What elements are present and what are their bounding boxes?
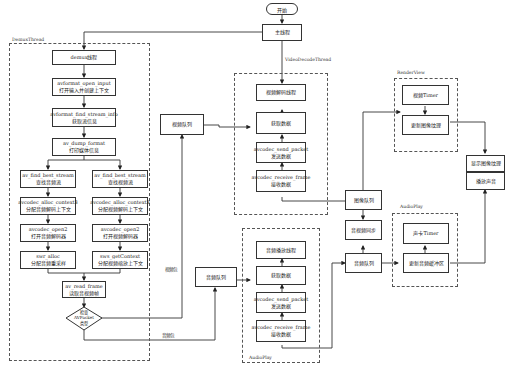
play-sound-box: 播放声音	[466, 172, 505, 190]
av-sync-box: 音视频同步	[345, 220, 382, 240]
audio-play-thread-label: AudioPlay	[249, 355, 272, 360]
audio-alloc-context-box: avcodec_alloc_context3分配音频解码上下文	[20, 197, 76, 215]
desc-label: 发送数据	[271, 153, 291, 160]
queue-label: 音频队列	[354, 260, 374, 267]
fn-label: swr_alloc	[36, 253, 60, 260]
box-label: 声卡Timer	[413, 230, 438, 237]
dump-format-box: av_dump_format打印媒体信息	[52, 138, 116, 156]
fn-label: av_read_frame	[65, 283, 102, 290]
audio-play-output-label: AudioPlay	[400, 204, 423, 209]
decision-line-2: AVPacket	[70, 315, 98, 320]
video-find-best-stream-box: av_find_best_stream查找视频流	[92, 170, 148, 188]
video-receive-frame-box: avcodec_receive_frame接收数据	[256, 170, 306, 192]
update-texture-box: 更新图像纹理	[402, 115, 449, 135]
audio-packet-edge-label: 音频包	[162, 332, 174, 338]
video-send-packet-box: avcodec_send_packet发送数据	[256, 142, 306, 163]
box-label: 音视频同步	[351, 227, 376, 234]
fn-label: avcodec_receive_frame	[252, 174, 311, 181]
fn-label: avcodec_open2	[29, 226, 68, 233]
desc-label: 接收数据	[271, 181, 291, 188]
decision-text: 检查 AVPacket 类型	[70, 310, 98, 326]
audio-receive-frame-box: avcodec_receive_frame接收数据	[256, 320, 306, 342]
main-thread-label: 主线程	[275, 29, 290, 36]
queue-label: 音频队列	[206, 274, 226, 281]
demux-thread-title: demux线程	[71, 54, 98, 61]
box-label: 视频Timer	[413, 92, 438, 99]
fn-label: avcodec_send_packet	[254, 296, 309, 303]
desc-label: 打开音频解码器	[31, 233, 66, 240]
render-view-label: RenderView	[397, 70, 425, 75]
box-label: 播放声音	[476, 178, 496, 185]
video-alloc-context-box: avcodec_alloc_context3分配视频解码上下文	[92, 197, 148, 215]
fn-label: avcodec_receive_frame	[252, 324, 311, 331]
audio-send-packet-box: avcodec_send_packet发送数据	[256, 292, 306, 313]
open-input-box: avformat_open_input打开输入并创建上下文	[52, 78, 116, 96]
video-decode-thread-label: VideoDecodeThread	[285, 57, 331, 62]
video-packet-queue-box: 视频队列	[160, 114, 204, 135]
desc-label: 分配视频解码上下文	[98, 206, 143, 213]
audio-play-thread-box: 音频播放线程	[256, 241, 306, 259]
desc-label: 打开视频解码器	[103, 233, 138, 240]
desc-label: 读取音视频帧	[69, 290, 99, 297]
video-open2-box: avcodec_open2打开视频解码器	[92, 224, 148, 242]
fn-label: av_dump_format	[63, 140, 105, 147]
fn-label: avcodec_open2	[101, 226, 140, 233]
fn-label: avformat_find_stream_info	[50, 111, 117, 118]
box-label: 音频播放线程	[266, 247, 296, 254]
video-decode-thread-box: 视频解码线程	[256, 84, 306, 101]
demux-thread-box: demux线程	[52, 50, 116, 65]
queue-label: 视频队列	[172, 121, 192, 128]
image-queue-box: 图像队列	[345, 190, 382, 210]
fn-label: avformat_open_input	[57, 80, 110, 87]
desc-label: 获取流信息	[72, 118, 97, 125]
desc-label: 接收数据	[271, 331, 291, 338]
main-thread-box: 主线程	[262, 24, 302, 41]
desc-label: 查找视频流	[108, 179, 133, 186]
fn-label: avcodec_alloc_context3	[90, 199, 150, 206]
decision-line-3: 类型	[70, 321, 98, 326]
box-label: 更新图像纹理	[411, 122, 441, 129]
box-label: 更新音频缓冲区	[409, 260, 444, 267]
box-label: 视频解码线程	[266, 89, 296, 96]
desc-label: 分配视频缩放上下文	[98, 260, 143, 267]
sws-getcontext-box: sws_getContext分配视频缩放上下文	[92, 251, 148, 269]
video-timer-box: 视频Timer	[402, 85, 449, 105]
video-get-data-box: 获取数据	[256, 112, 306, 134]
read-frame-box: av_read_frame读取音视频帧	[62, 281, 106, 298]
fn-label: av_find_best_stream	[22, 172, 73, 179]
audio-find-best-stream-box: av_find_best_stream查找音频流	[20, 170, 76, 188]
fn-label: sws_getContext	[100, 253, 140, 260]
sound-card-timer-box: 声卡Timer	[403, 223, 449, 244]
audio-frame-queue-box: 音频队列	[345, 253, 382, 273]
audio-get-data-box: 获取数据	[256, 266, 306, 285]
display-texture-box: 显示图像纹理	[466, 155, 505, 172]
fn-label: avcodec_send_packet	[254, 146, 309, 153]
demux-thread-label: DemuxThread	[12, 37, 44, 42]
desc-label: 打开输入并创建上下文	[59, 87, 109, 94]
desc-label: 发送数据	[271, 303, 291, 310]
audio-open2-box: avcodec_open2打开音频解码器	[20, 224, 76, 242]
box-label: 显示图像纹理	[471, 160, 501, 167]
desc-label: 分配音频解码上下文	[26, 206, 71, 213]
desc-label: 打印媒体信息	[69, 147, 99, 154]
box-label: 获取数据	[271, 120, 291, 127]
fn-label: avcodec_alloc_context3	[18, 199, 78, 206]
video-packet-edge-label: 视频包	[165, 266, 177, 272]
find-stream-info-box: avformat_find_stream_info获取流信息	[52, 108, 116, 127]
audio-packet-queue-box: 音频队列	[195, 267, 237, 287]
box-label: 获取数据	[271, 272, 291, 279]
start-node: 开始	[266, 3, 298, 15]
swr-alloc-box: swr_alloc分配音频重采样	[20, 251, 76, 269]
desc-label: 分配音频重采样	[31, 260, 66, 267]
update-audio-buffer-box: 更新音频缓冲区	[403, 253, 449, 273]
queue-label: 图像队列	[354, 197, 374, 204]
fn-label: av_find_best_stream	[94, 172, 145, 179]
desc-label: 查找音频流	[36, 179, 61, 186]
